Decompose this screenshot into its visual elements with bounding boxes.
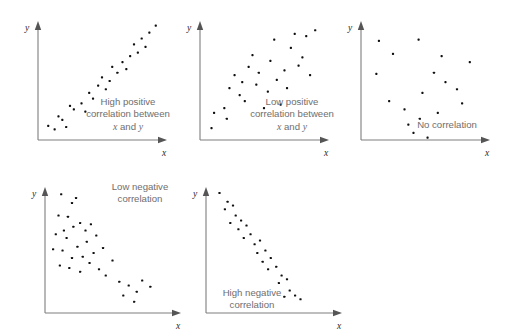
panel-caption: High negativecorrelation <box>223 287 282 310</box>
y-axis-label: y <box>31 189 37 199</box>
data-point <box>133 43 135 45</box>
data-point <box>67 216 69 218</box>
x-axis-arrowhead <box>481 137 490 143</box>
data-point <box>57 115 59 117</box>
data-point <box>223 107 225 109</box>
data-point <box>392 53 394 55</box>
data-point <box>61 119 63 121</box>
y-axis-arrowhead <box>42 187 48 196</box>
data-point <box>122 294 124 296</box>
data-point <box>97 85 99 87</box>
data-point <box>101 76 103 78</box>
data-point <box>218 192 220 194</box>
data-point <box>69 105 71 107</box>
x-axis-arrowhead <box>172 310 181 316</box>
data-point <box>125 68 127 70</box>
data-point <box>251 54 253 56</box>
data-point <box>72 226 74 228</box>
data-point <box>109 80 111 82</box>
data-point <box>264 249 266 251</box>
y-axis-arrowhead <box>35 21 41 30</box>
data-point-group <box>52 193 151 303</box>
data-point <box>301 56 303 58</box>
data-point <box>71 257 73 259</box>
correlation-scatter-figure: yxHigh positivecorrelation betweenx and … <box>0 0 511 333</box>
data-point <box>88 262 90 264</box>
data-point <box>229 222 231 224</box>
data-point <box>228 87 230 89</box>
data-point <box>210 127 212 129</box>
caption-line-2: correlation between <box>86 108 170 119</box>
data-point <box>294 33 296 35</box>
data-point <box>469 61 471 63</box>
data-point <box>418 39 420 41</box>
data-point <box>76 246 78 248</box>
caption-line-2: correlation <box>230 299 275 310</box>
data-point <box>290 47 292 49</box>
data-point <box>444 81 446 83</box>
data-point <box>84 229 86 231</box>
data-point <box>133 301 135 303</box>
data-point <box>426 137 428 139</box>
data-point <box>403 108 405 110</box>
data-point <box>240 219 242 221</box>
data-point <box>259 239 261 241</box>
data-point <box>241 81 243 83</box>
y-axis-label: y <box>24 23 30 33</box>
data-point <box>102 247 104 249</box>
data-point <box>437 112 439 114</box>
x-axis-label: x <box>323 148 329 158</box>
data-point <box>79 271 81 273</box>
data-point <box>275 266 277 268</box>
figure-canvas: yxHigh positivecorrelation betweenx and … <box>0 0 511 333</box>
data-point <box>148 32 150 34</box>
x-axis-label: x <box>175 321 181 331</box>
data-point <box>407 124 409 126</box>
data-point <box>144 46 146 48</box>
data-point <box>116 72 118 74</box>
data-point <box>270 257 272 259</box>
data-point <box>248 66 250 68</box>
y-axis-arrowhead <box>197 21 203 30</box>
data-point <box>267 268 269 270</box>
panel-caption: Low negativecorrelation <box>112 181 169 204</box>
scatter-panel-high-negative: yxHigh negativecorrelation <box>192 187 342 331</box>
data-point <box>441 55 443 57</box>
data-point <box>289 289 291 291</box>
data-point <box>71 202 73 204</box>
data-point <box>281 274 283 276</box>
caption-line-2: correlation between <box>250 108 334 119</box>
data-point <box>93 252 95 254</box>
data-point <box>269 60 271 62</box>
x-axis-label: x <box>161 148 167 158</box>
caption-line-2: correlation <box>118 193 163 204</box>
data-point <box>118 281 120 283</box>
data-point <box>297 65 299 67</box>
panel-caption: High positivecorrelation betweenx and y <box>86 96 170 132</box>
x-axis-label: x <box>484 148 490 158</box>
caption-conjunction: and <box>117 121 138 132</box>
data-point <box>73 108 75 110</box>
data-point <box>60 193 62 195</box>
data-point <box>299 298 301 300</box>
caption-line-variables: x and y <box>112 121 144 132</box>
data-point <box>105 88 107 90</box>
data-point <box>255 83 257 85</box>
data-point <box>256 252 258 254</box>
data-point <box>88 92 90 94</box>
y-axis-label: y <box>192 189 198 199</box>
x-axis-arrowhead <box>320 137 329 143</box>
data-point <box>95 234 97 236</box>
caption-line-variables: x and y <box>276 121 308 132</box>
data-point <box>105 274 107 276</box>
caption-line-1: High negative <box>223 287 282 298</box>
data-point <box>433 72 435 74</box>
data-point <box>128 284 130 286</box>
caption-line-1: High positive <box>101 96 156 107</box>
data-point <box>90 223 92 225</box>
data-point <box>111 66 113 68</box>
data-point <box>47 125 49 127</box>
data-point <box>155 24 157 26</box>
data-point <box>121 61 123 63</box>
data-point <box>412 132 414 134</box>
